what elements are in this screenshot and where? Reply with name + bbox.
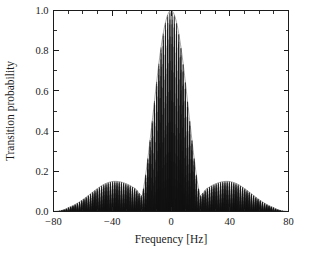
y-tick-label: 1.0 [35,5,48,16]
x-tick-label: 40 [225,216,236,227]
y-axis-title: Transition probability [4,61,17,161]
y-tick-label: 0.6 [35,86,48,97]
plot-svg: −80−4004080 0.00.20.40.60.81.0 Frequency… [0,0,313,255]
fringe-series [57,12,284,212]
x-tick-label: 0 [168,216,173,227]
y-tick-labels: 0.00.20.40.60.81.0 [35,5,49,217]
x-tick-label: 80 [283,216,294,227]
x-tick-label: −80 [45,216,61,227]
y-tick-label: 0.2 [35,166,48,177]
fringe-strokes [57,12,284,212]
x-tick-label: −40 [104,216,120,227]
y-tick-label: 0.0 [35,206,48,217]
chart-figure: −80−4004080 0.00.20.40.60.81.0 Frequency… [0,0,313,255]
x-tick-labels: −80−4004080 [45,216,293,227]
y-tick-label: 0.8 [35,45,48,56]
y-tick-label: 0.4 [35,126,49,137]
x-axis-title: Frequency [Hz] [135,233,207,246]
